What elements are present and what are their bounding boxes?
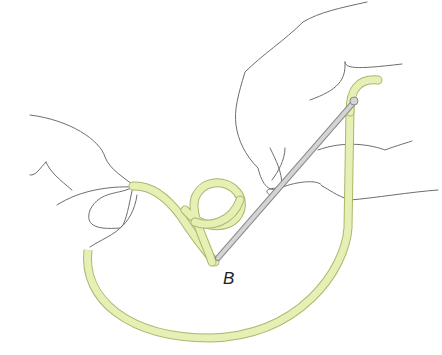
figure-label: B — [223, 269, 234, 289]
left-hand-outline — [30, 115, 137, 247]
illustration: B — [0, 0, 442, 355]
right-hand-outline — [235, 2, 438, 200]
tube-threading-illustration — [0, 0, 442, 355]
wire-stylet — [218, 97, 358, 258]
